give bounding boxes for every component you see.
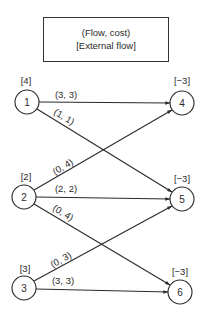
edge-3-to-5 (34, 206, 172, 281)
edge-label-2-to-5: (2, 2) (55, 183, 77, 194)
node-6-external-flow: [−3] (172, 266, 188, 277)
node-4-label: 4 (179, 98, 185, 109)
edge-2-to-4 (34, 110, 172, 190)
node-3-label: 3 (21, 283, 27, 294)
legend: (Flow, cost) [External flow] (44, 18, 169, 62)
node-1-label: 1 (24, 97, 30, 108)
edge-1-to-4 (39, 102, 170, 103)
node-3-external-flow: [3] (20, 263, 31, 274)
node-2-label: 2 (21, 192, 27, 203)
node-2: [2] 2 (12, 171, 36, 209)
node-4-external-flow: [−3] (174, 75, 190, 86)
node-5-external-flow: [−3] (174, 173, 190, 184)
edge-3-to-6 (36, 289, 168, 292)
legend-line-2: [External flow] (76, 40, 136, 51)
node-1: [4] 1 (15, 75, 39, 114)
network-flow-diagram: (Flow, cost) [External flow] (3, 3) (1, … (0, 0, 206, 314)
edge-label-3-to-6: (3, 3) (52, 275, 74, 286)
diagram-svg: (Flow, cost) [External flow] (3, 3) (1, … (0, 0, 206, 314)
legend-line-1: (Flow, cost) (82, 27, 131, 38)
node-6-label: 6 (177, 287, 183, 298)
node-6: [−3] 6 (168, 266, 192, 304)
edge-label-2-to-6: (0, 4) (51, 202, 76, 223)
node-5: [−3] 5 (170, 173, 194, 211)
edge-label-1-to-4: (3, 3) (55, 89, 77, 100)
edge-label-1-to-5: (1, 1) (52, 106, 77, 127)
edge-2-to-5 (36, 197, 170, 199)
node-4: [−3] 4 (170, 75, 194, 115)
node-5-label: 5 (179, 194, 185, 205)
node-2-external-flow: [2] (21, 171, 32, 182)
node-1-external-flow: [4] (21, 75, 32, 86)
node-3: [3] 3 (12, 263, 36, 300)
